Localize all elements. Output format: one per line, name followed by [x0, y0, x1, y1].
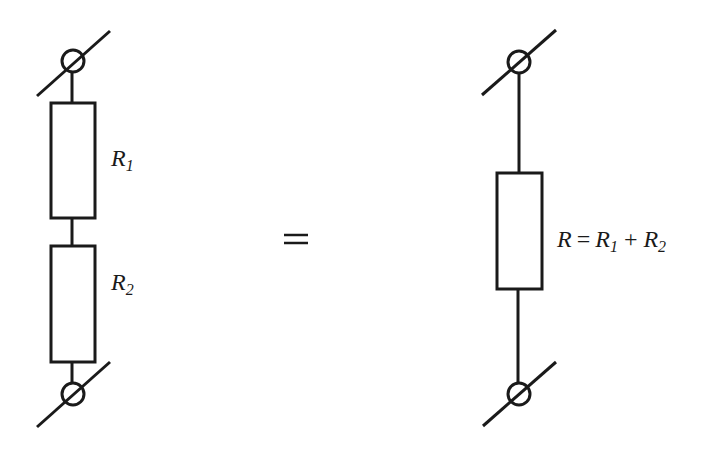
resistor-r2 — [51, 246, 95, 362]
label-r2: R2 — [110, 269, 134, 298]
resistor-r-equivalent — [497, 173, 542, 289]
equals-sign — [284, 235, 308, 243]
left-circuit: R1 R2 — [37, 31, 134, 427]
right-circuit: R=R1+R2 — [482, 30, 666, 426]
resistor-r1 — [51, 103, 95, 218]
series-resistor-diagram: R1 R2 R=R1+R2 — [0, 0, 725, 450]
equivalent-resistance-formula: R=R1+R2 — [556, 226, 666, 255]
label-r1: R1 — [110, 145, 134, 174]
